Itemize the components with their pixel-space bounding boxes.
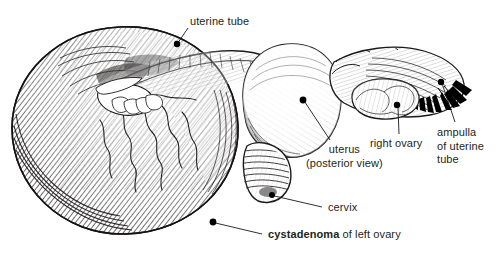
marker-ampulla bbox=[438, 79, 444, 85]
marker-right-ovary bbox=[394, 102, 400, 108]
label-cystadenoma: cystadenoma of left ovary bbox=[268, 228, 401, 242]
label-ampulla-line2: of uterine bbox=[437, 140, 484, 154]
leader-cystadenoma bbox=[216, 223, 263, 234]
label-ampulla-line3: tube bbox=[437, 153, 484, 167]
marker-uterus bbox=[300, 97, 307, 104]
label-right-ovary-text: right ovary bbox=[370, 137, 422, 149]
label-cervix: cervix bbox=[328, 201, 357, 215]
marker-uterine-tube bbox=[174, 41, 180, 47]
label-uterus-line2: (posterior view) bbox=[306, 157, 383, 171]
label-right-ovary: right ovary bbox=[370, 137, 422, 151]
label-cystadenoma-term: cystadenoma bbox=[268, 228, 339, 240]
label-cervix-text: cervix bbox=[328, 201, 357, 213]
label-uterine-tube-text: uterine tube bbox=[190, 15, 249, 27]
label-cystadenoma-qualifier: of left ovary bbox=[339, 228, 400, 240]
marker-cervix bbox=[269, 192, 275, 198]
label-uterine-tube: uterine tube bbox=[190, 15, 249, 29]
illustration-artwork bbox=[0, 0, 500, 266]
label-ampulla-of-uterine-tube: ampulla of uterine tube bbox=[437, 126, 484, 167]
leader-cervix bbox=[275, 196, 323, 207]
marker-cystadenoma bbox=[210, 219, 217, 226]
label-ampulla-line1: ampulla bbox=[437, 126, 484, 140]
anatomical-figure: uterine tube uterus (posterior view) rig… bbox=[0, 0, 500, 266]
